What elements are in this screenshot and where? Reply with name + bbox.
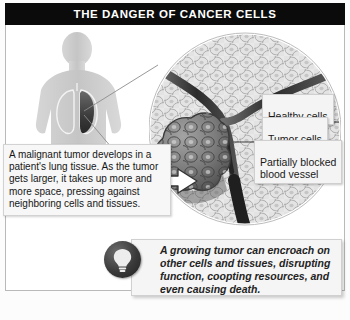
tumor-description-box: A malignant tumor develops in a patient'… — [3, 144, 171, 216]
page-title: THE DANGER OF CANCER CELLS — [74, 8, 277, 20]
insight-callout-box: A growing tumor can encroach on other ce… — [131, 239, 342, 296]
infographic-root: THE DANGER OF CANCER CELLS — [0, 0, 350, 320]
insight-callout: A growing tumor can encroach on other ce… — [104, 237, 342, 299]
lightbulb-icon — [104, 241, 141, 278]
insight-callout-text: A growing tumor can encroach on other ce… — [160, 244, 330, 295]
title-banner: THE DANGER OF CANCER CELLS — [5, 3, 345, 25]
label-blocked-vessel-text: Partially blocked blood vessel — [260, 156, 336, 181]
tumor-description-text: A malignant tumor develops in a patient'… — [9, 149, 158, 209]
label-blocked-vessel: Partially blocked blood vessel — [254, 140, 342, 184]
